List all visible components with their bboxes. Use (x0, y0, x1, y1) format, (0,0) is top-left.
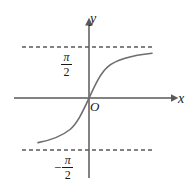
lower-asymptote-numerator: π (63, 154, 73, 167)
x-axis-label: x (178, 92, 184, 106)
lower-asymptote-label: − π 2 (54, 154, 73, 181)
origin-label: O (90, 100, 99, 113)
plot-canvas (0, 0, 196, 190)
y-axis-label: y (90, 12, 96, 26)
upper-asymptote-fraction: π 2 (61, 51, 72, 78)
upper-asymptote-label: π 2 (60, 51, 72, 78)
lower-asymptote-denominator: 2 (63, 168, 73, 181)
lower-asymptote-minus-sign: − (54, 160, 61, 176)
arctan-graph-figure: y x O π 2 − π 2 (0, 0, 196, 190)
upper-asymptote-numerator: π (61, 51, 71, 64)
upper-asymptote-denominator: 2 (62, 65, 72, 78)
lower-asymptote-fraction: π 2 (62, 154, 73, 181)
